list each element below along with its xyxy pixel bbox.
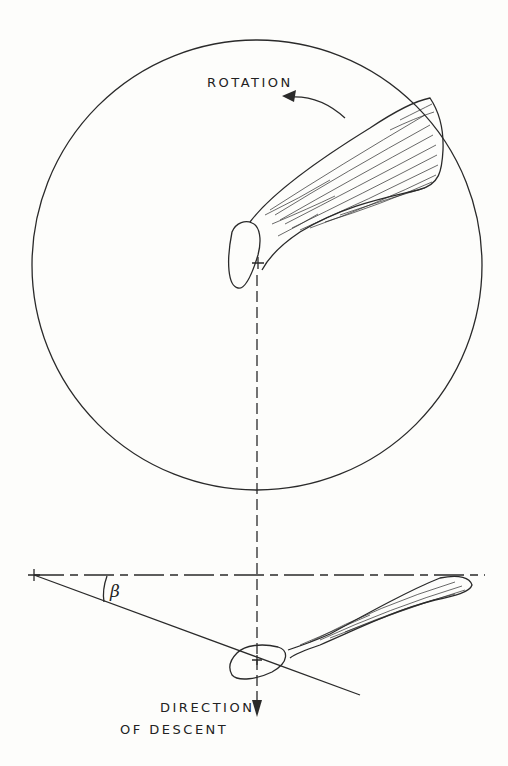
rotation-arrowhead-icon — [282, 90, 296, 102]
descent-label-line2: OF DESCENT — [120, 722, 228, 737]
seed-side-view — [230, 576, 472, 679]
samara-diagram: ROTATION β DIRECTION OF DESCENT — [0, 0, 508, 766]
descent-label-line1: DIRECTION — [160, 700, 254, 715]
rotation-arrow-icon — [290, 97, 345, 118]
beta-arc — [103, 576, 107, 602]
coning-line — [34, 575, 360, 695]
seed-top-view — [229, 98, 443, 288]
rotation-label: ROTATION — [207, 75, 293, 90]
beta-label: β — [109, 581, 120, 601]
